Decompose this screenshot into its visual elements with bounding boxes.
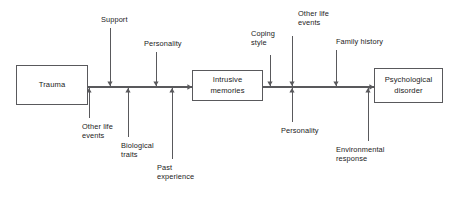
factor-arrow-past-experience [169, 88, 174, 159]
factor-label-biological-traits: Biological traits [121, 141, 154, 160]
factor-label-support: Support [101, 15, 128, 24]
factor-label-environmental-response: Environmental response [336, 145, 385, 164]
node-trauma[interactable]: Trauma [16, 65, 88, 105]
flow-arrow-trauma-to-intrusive [88, 84, 192, 89]
factor-label-past-experience: Past experience [157, 163, 194, 182]
factor-arrow-support [107, 28, 112, 86]
node-intrusive-memories[interactable]: Intrusive memories [192, 70, 263, 101]
flow-arrow-intrusive-to-disorder [263, 84, 374, 89]
node-psychological-disorder[interactable]: Psychological disorder [374, 68, 443, 103]
factor-arrow-coping-style [267, 55, 272, 86]
node-intrusive-memories-label: Intrusive memories [208, 75, 246, 96]
factor-label-family-history: Family history [336, 37, 383, 46]
factor-arrow-family-history [333, 50, 338, 86]
factor-arrow-biological-traits [125, 88, 130, 137]
factor-label-other-life-events-1: Other life events [82, 122, 113, 141]
node-trauma-label: Trauma [37, 80, 67, 90]
factor-label-personality-1: Personality [144, 39, 182, 48]
flow-diagram: Trauma Intrusive memories Psychological … [0, 0, 459, 197]
factor-arrow-personality-2 [289, 88, 294, 122]
factor-label-coping-style: Coping style [251, 29, 275, 48]
factor-arrow-environmental-response [365, 88, 370, 141]
node-psychological-disorder-label: Psychological disorder [383, 75, 435, 96]
factor-arrow-personality-1 [153, 52, 158, 86]
factor-label-personality-2: Personality [281, 126, 319, 135]
factor-label-other-life-events-2: Other life events [298, 9, 329, 28]
factor-arrow-other-life-events-2 [289, 36, 294, 86]
